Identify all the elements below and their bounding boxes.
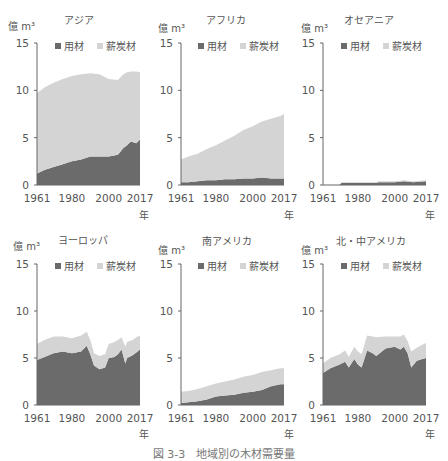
x-tick-label: 2017	[271, 412, 298, 424]
area-chart: 0510151961198020002017	[298, 0, 448, 225]
y-tick-label: 15	[302, 37, 315, 49]
x-tick-label: 2000	[95, 192, 122, 204]
x-tick-label: 2000	[95, 412, 122, 424]
figure-caption: 図 3-3 地域別の木材需要量	[0, 445, 448, 461]
x-tick-label: 2017	[413, 412, 440, 424]
year-unit-label: 年	[425, 426, 435, 441]
y-tick-label: 5	[22, 352, 29, 364]
year-unit-label: 年	[284, 426, 294, 441]
y-tick-label: 0	[308, 179, 315, 191]
area-series-fuelwood	[181, 114, 284, 182]
year-unit-label: 年	[284, 207, 294, 222]
y-tick-label: 0	[166, 399, 173, 411]
x-tick-label: 1980	[345, 412, 372, 424]
x-tick-label: 1980	[59, 412, 86, 424]
x-tick-label: 2000	[239, 192, 266, 204]
year-unit-label: 年	[139, 426, 149, 441]
y-tick-label: 10	[16, 305, 29, 317]
x-tick-label: 1980	[345, 192, 372, 204]
area-chart: 0510151961198020002017	[150, 225, 300, 454]
y-tick-label: 0	[166, 179, 173, 191]
year-unit-label: 年	[139, 207, 149, 222]
x-tick-label: 2017	[413, 192, 440, 204]
x-tick-label: 2000	[381, 192, 408, 204]
y-tick-label: 10	[302, 84, 315, 96]
x-tick-label: 2017	[271, 192, 298, 204]
x-tick-label: 1980	[203, 412, 230, 424]
y-tick-label: 15	[16, 37, 29, 49]
y-tick-label: 5	[308, 352, 315, 364]
y-tick-label: 5	[308, 132, 315, 144]
x-tick-label: 1961	[168, 192, 195, 204]
area-chart: 0510151961198020002017	[0, 0, 150, 225]
x-tick-label: 1961	[24, 412, 51, 424]
y-tick-label: 10	[302, 305, 315, 317]
y-tick-label: 5	[166, 352, 173, 364]
x-tick-label: 1961	[168, 412, 195, 424]
x-tick-label: 1980	[203, 192, 230, 204]
chart-panel-asia: 億 m³ アジア 用材 薪炭材 0510151961198020002017 年	[0, 0, 150, 225]
y-tick-label: 0	[308, 399, 315, 411]
x-tick-label: 1980	[59, 192, 86, 204]
area-chart: 0510151961198020002017	[150, 0, 300, 225]
y-tick-label: 10	[16, 84, 29, 96]
x-tick-label: 2000	[239, 412, 266, 424]
year-unit-label: 年	[425, 207, 435, 222]
y-tick-label: 10	[160, 305, 173, 317]
x-tick-label: 1961	[310, 412, 337, 424]
chart-panel-oceania: 億 m³ オセアニア 用材 薪炭材 0510151961198020002017…	[298, 0, 448, 225]
y-tick-label: 15	[302, 258, 315, 270]
area-chart: 0510151961198020002017	[0, 225, 150, 454]
x-tick-label: 1961	[24, 192, 51, 204]
area-chart: 0510151961198020002017	[298, 225, 448, 454]
y-tick-label: 15	[160, 258, 173, 270]
y-tick-label: 10	[160, 84, 173, 96]
y-tick-label: 0	[22, 179, 29, 191]
chart-panel-africa: 億 m³ アフリカ 用材 薪炭材 0510151961198020002017 …	[150, 0, 300, 225]
chart-panel-south-america: 億 m³ 南アメリカ 用材 薪炭材 0510151961198020002017…	[150, 225, 300, 450]
chart-panel-north-central-america: 億 m³ 北・中アメリカ 用材 薪炭材 05101519611980200020…	[298, 225, 448, 450]
y-tick-label: 5	[22, 132, 29, 144]
y-tick-label: 5	[166, 132, 173, 144]
x-tick-label: 2000	[381, 412, 408, 424]
y-tick-label: 15	[16, 258, 29, 270]
y-tick-label: 0	[22, 399, 29, 411]
y-tick-label: 15	[160, 37, 173, 49]
x-tick-label: 1961	[310, 192, 337, 204]
chart-panel-europe: 億 m³ ヨーロッパ 用材 薪炭材 0510151961198020002017…	[0, 225, 150, 450]
